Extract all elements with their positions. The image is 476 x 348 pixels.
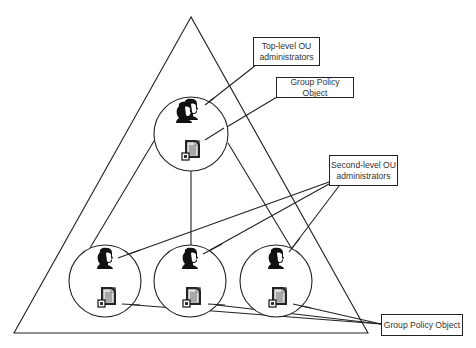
label-bottom-group-policy-object: Group Policy Object	[381, 314, 463, 336]
label-text: Group Policy Object	[277, 77, 353, 99]
label-line: administrators	[260, 52, 314, 63]
leader-second-admin-left	[118, 182, 329, 258]
label-top-level-admins: Top-level OU administrators	[253, 37, 320, 66]
label-top-group-policy-object: Group Policy Object	[276, 77, 354, 98]
label-line: Second-level OU	[331, 160, 396, 171]
connector-top-to-left	[90, 141, 154, 248]
connector-top-to-right	[228, 143, 292, 249]
label-line: Top-level OU	[262, 41, 312, 52]
label-line: administrators	[337, 171, 391, 182]
label-text: Group Policy Object	[384, 320, 460, 331]
label-second-level-admins: Second-level OU administrators	[329, 155, 398, 186]
ou-hierarchy-diagram	[0, 0, 476, 348]
leader-second-admin-middle	[203, 184, 329, 254]
